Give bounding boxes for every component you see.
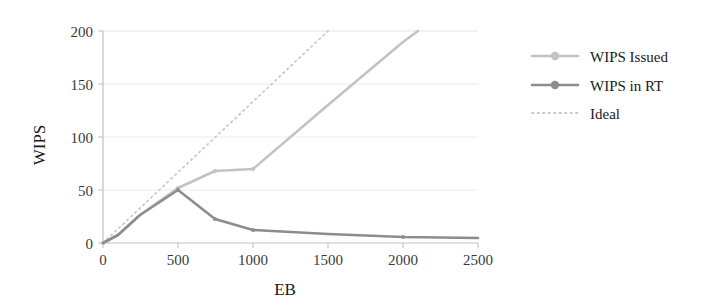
x-tick-label-0: 0	[99, 252, 107, 268]
legend-marker-dot-wips-in-rt	[551, 81, 559, 89]
legend-label-wips-issued: WIPS Issued	[590, 49, 668, 65]
x-tick-label-1000: 1000	[238, 252, 268, 268]
legend-item-wips-issued[interactable]: WIPS Issued	[532, 49, 668, 65]
y-tick-marks	[98, 31, 103, 243]
series-line-wips-in-rt	[103, 190, 478, 243]
x-tick-label-2500: 2500	[463, 252, 493, 268]
y-tick-label-50: 50	[78, 183, 93, 199]
x-tick-labels: 0 500 1000 1500 2000 2500	[99, 252, 493, 268]
y-tick-label-200: 200	[71, 24, 94, 40]
y-tick-label-0: 0	[86, 236, 94, 252]
series-markers-wips-issued	[101, 167, 255, 245]
legend-item-ideal[interactable]: Ideal	[532, 106, 620, 122]
y-tick-label-100: 100	[71, 130, 94, 146]
gridlines	[103, 31, 478, 190]
x-tick-label-2000: 2000	[388, 252, 418, 268]
chart-figure: 200 150 100 50 0 0 500 1000 1500 2000 25…	[0, 0, 709, 305]
y-axis-title: WIPS	[30, 125, 49, 166]
legend-label-wips-in-rt: WIPS in RT	[590, 78, 663, 94]
x-axis-title: EB	[274, 280, 296, 299]
x-tick-label-500: 500	[167, 252, 190, 268]
y-tick-labels: 200 150 100 50 0	[71, 24, 94, 252]
x-tick-label-1500: 1500	[313, 252, 343, 268]
chart-legend: WIPS Issued WIPS in RT Ideal	[532, 49, 668, 122]
legend-marker-dot-wips-issued	[551, 52, 559, 60]
line-chart: 200 150 100 50 0 0 500 1000 1500 2000 25…	[0, 0, 709, 305]
x-tick-marks	[103, 243, 478, 248]
legend-item-wips-in-rt[interactable]: WIPS in RT	[532, 78, 663, 94]
y-tick-label-150: 150	[71, 77, 94, 93]
legend-label-ideal: Ideal	[590, 106, 620, 122]
